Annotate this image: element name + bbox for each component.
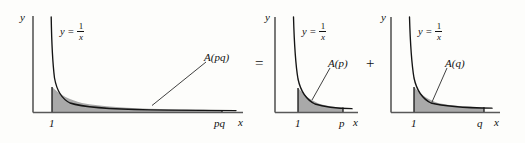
y-axis-label-p: y: [265, 12, 270, 23]
fraction-numerator-p: 1: [320, 22, 327, 32]
y-axis-label-pq: y: [20, 12, 25, 23]
x-tick-p-upper: p: [339, 118, 345, 129]
curve-equation-lhs-p: y =: [302, 27, 316, 38]
x-tick-pq-1: 1: [49, 118, 55, 129]
fraction-one-over-x-pq: 1 x: [77, 22, 84, 42]
fraction-numerator-pq: 1: [78, 22, 85, 32]
x-axis-label-pq: x: [238, 117, 243, 128]
fraction-denominator-p: x: [320, 32, 326, 42]
area-label-q: A(q): [445, 58, 465, 69]
x-tick-pq-upper: pq: [214, 118, 225, 129]
x-axis-label-p: x: [353, 117, 358, 128]
y-axis-label-q: y: [381, 12, 386, 23]
curve-equation-lhs-pq: y =: [60, 27, 74, 38]
plus-operator: +: [366, 56, 374, 71]
x-tick-p-1: 1: [295, 118, 301, 129]
x-axis-label-q: x: [494, 117, 499, 128]
x-tick-q-1: 1: [411, 118, 417, 129]
area-label-pq: A(pq): [204, 52, 229, 63]
curve-equation-pq: y = 1 x: [60, 22, 84, 42]
fraction-denominator-q: x: [436, 32, 442, 42]
fraction-numerator-q: 1: [436, 22, 443, 32]
curve-equation-lhs-q: y =: [418, 27, 432, 38]
x-tick-q-upper: q: [477, 118, 483, 129]
curve-equation-q: y = 1 x: [418, 22, 442, 42]
fraction-one-over-x-p: 1 x: [319, 22, 326, 42]
fraction-one-over-x-q: 1 x: [435, 22, 442, 42]
curve-equation-p: y = 1 x: [302, 22, 326, 42]
equals-operator: =: [255, 56, 263, 71]
area-label-p: A(p): [328, 58, 348, 69]
fraction-denominator-pq: x: [78, 32, 84, 42]
